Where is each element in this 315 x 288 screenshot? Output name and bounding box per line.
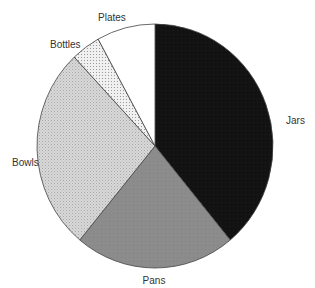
slice-label-bowls: Bowls: [12, 157, 39, 168]
slice-label-jars: Jars: [286, 115, 305, 126]
pie-slices: [37, 24, 273, 268]
slice-label-pans: Pans: [143, 275, 166, 286]
slice-label-bottles: Bottles: [50, 39, 81, 50]
slice-label-plates: Plates: [98, 12, 126, 23]
pie-chart: JarsPansBowlsBottlesPlates: [0, 0, 315, 288]
